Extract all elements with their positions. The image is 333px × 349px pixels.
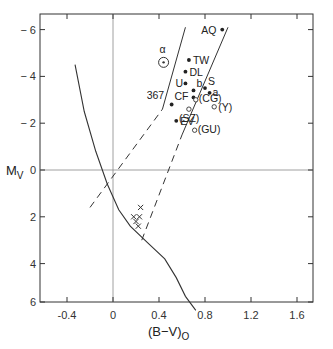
cross-marker [138,205,143,210]
star-point-filled [187,58,191,62]
cross-marker [137,214,142,219]
star-point-open [212,105,216,109]
x-tick-label: 0.4 [151,309,166,321]
x-tick-label: 1.2 [243,309,258,321]
data-points: AQTWDLUbSaCF367EV(CG)(Y)(SZ)(GU)α [131,24,232,229]
star-point-filled [220,28,224,32]
x-tick-label: 1.6 [289,309,304,321]
star-point-filled [170,103,174,107]
y-tick-label: 2 [30,211,36,223]
x-axis-title: (B−V)O [148,324,190,342]
point-label: (GU) [198,123,221,135]
point-label: TW [193,54,209,66]
point-label: α [160,43,166,55]
point-label: DL [189,66,203,78]
y-tick-label: 6 [30,296,36,308]
point-label: b [197,77,203,89]
reference-lines [40,14,313,302]
instability-strip-red-edge-dashed [142,135,182,240]
star-point-open [194,98,198,102]
point-label: 367 [147,89,165,101]
y-tick-label: 4 [30,258,36,270]
point-label: CF [175,90,189,102]
star-point-open [192,128,196,132]
y-tick-label: − 6 [20,24,36,36]
point-label: (Y) [218,101,232,113]
x-tick-label: 0 [110,309,116,321]
star-point-open [187,107,191,111]
hr-diagram: -0.400.40.81.21.6− 6− 4− 20246 AQTWDLUbS… [0,0,333,349]
point-label: (SZ) [179,112,199,124]
y-axis-title: MV [6,163,24,181]
y-tick-label: − 2 [20,117,36,129]
y-tick-label: 0 [30,164,36,176]
star-point-filled [192,89,196,93]
axis-ticks: -0.400.40.81.21.6− 6− 4− 20246 [20,14,313,321]
star-point-filled [174,119,178,123]
x-tick-label: 0.8 [197,309,212,321]
x-tick-label: -0.4 [58,309,77,321]
star-point-filled [184,82,188,86]
star-point-filled [184,70,188,74]
y-tick-label: − 4 [20,70,36,82]
sun-symbol-dot [162,61,164,63]
curves [75,27,228,310]
point-label: U [175,77,183,89]
plot-frame [40,14,313,302]
point-label: AQ [201,24,216,36]
star-point-filled [203,86,207,90]
instability-strip-blue-edge-dashed [90,109,162,207]
